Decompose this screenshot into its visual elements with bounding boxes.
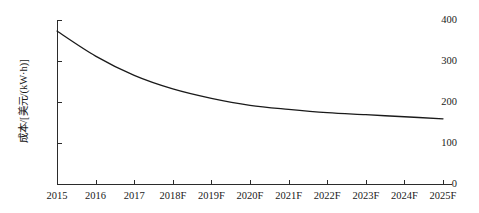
y-axis-title: 成本/[美元/(kW·h)] — [16, 16, 32, 186]
x-tick-label: 2016 — [85, 190, 106, 201]
plot-area: 0 100 200 300 400 2015 2016 2017 2018F 2… — [57, 20, 465, 184]
cost-decline-line — [57, 31, 443, 119]
x-tick-label: 2015 — [47, 190, 68, 201]
x-tick-label: 2018F — [159, 190, 186, 201]
x-tick-label: 2017 — [124, 190, 145, 201]
x-tick-label: 2022F — [314, 190, 341, 201]
x-tick-label: 2019F — [198, 190, 225, 201]
x-tick-label: 2023F — [352, 190, 379, 201]
chart-figure: 成本/[美元/(kW·h)] 0 100 200 300 400 2015 20… — [0, 0, 479, 213]
x-tick-label: 2025F — [430, 190, 457, 201]
x-tick-label: 2024F — [391, 190, 418, 201]
x-tick-label: 2020F — [237, 190, 264, 201]
x-tick-label: 2021F — [275, 190, 302, 201]
series-plot — [57, 20, 465, 185]
